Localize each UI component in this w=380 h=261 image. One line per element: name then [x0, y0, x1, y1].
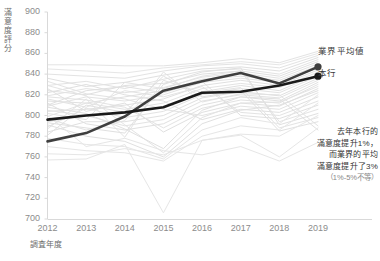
y-tick-label: 840 — [14, 68, 40, 78]
x-tick-label: 2018 — [259, 223, 299, 233]
y-tick-label: 900 — [14, 6, 40, 16]
x-tick-label: 2017 — [221, 223, 261, 233]
x-tick-label: 2012 — [28, 223, 68, 233]
series-line-background — [48, 51, 319, 65]
y-tick-label: 720 — [14, 192, 40, 202]
x-tick-label: 2015 — [143, 223, 183, 233]
annotation-line-4: 滿意度提升了3% — [296, 161, 378, 173]
y-axis-title: 滿意度評分 — [1, 8, 14, 53]
annotation-note: 去年本行的 滿意度提升1%， 而業界的平均 滿意度提升了3% （1%-5%不等） — [296, 126, 378, 184]
y-tick-label: 760 — [14, 151, 40, 161]
x-tick-label: 2013 — [66, 223, 106, 233]
legend-item-our-bank[interactable]: 本行 — [318, 66, 337, 78]
y-tick-label: 780 — [14, 130, 40, 140]
annotation-line-3: 而業界的平均 — [296, 149, 378, 161]
y-tick-label: 700 — [14, 213, 40, 223]
series-line-background — [48, 95, 319, 159]
annotation-line-1: 去年本行的 — [296, 126, 378, 138]
x-tick-label: 2014 — [105, 223, 145, 233]
x-tick-label: 2019 — [298, 223, 338, 233]
legend-item-industry-average[interactable]: 業界平均値 — [318, 44, 365, 56]
annotation-subnote: （1%-5%不等） — [296, 172, 378, 184]
y-tick-label: 820 — [14, 89, 40, 99]
y-tick-label: 800 — [14, 110, 40, 120]
y-tick-label: 880 — [14, 27, 40, 37]
x-tick-label: 2016 — [182, 223, 222, 233]
satisfaction-line-chart: 滿意度評分 調査年度 70072074076078080082084086088… — [0, 0, 380, 261]
series-line-background — [48, 53, 319, 73]
y-tick-label: 860 — [14, 47, 40, 57]
x-axis-title: 調査年度 — [30, 238, 62, 249]
y-tick-label: 740 — [14, 172, 40, 182]
annotation-line-2: 滿意度提升1%， — [296, 138, 378, 150]
